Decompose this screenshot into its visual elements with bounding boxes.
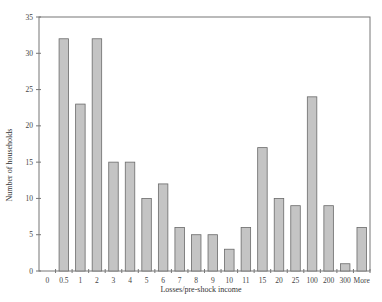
bar <box>175 227 185 271</box>
x-tick-label: More <box>354 276 371 285</box>
bar <box>59 39 68 271</box>
y-tick-label: 30 <box>26 49 34 58</box>
bar <box>307 97 317 271</box>
bar <box>291 206 301 271</box>
y-tick-label: 5 <box>29 230 33 239</box>
x-tick-label: 100 <box>306 276 318 285</box>
bar <box>125 162 134 271</box>
x-tick-label: 9 <box>211 276 215 285</box>
x-tick-label: 11 <box>242 276 249 285</box>
plot-border <box>39 17 370 271</box>
x-tick-label: 2 <box>95 276 99 285</box>
y-tick-label: 0 <box>29 267 33 276</box>
bar <box>258 148 268 271</box>
bar <box>274 198 284 271</box>
bar-chart: 05101520253035 00.5123456789101115202510… <box>0 0 382 302</box>
bar <box>191 235 201 271</box>
bar <box>92 39 102 271</box>
bar <box>225 249 235 271</box>
x-tick-label: 3 <box>112 276 116 285</box>
bars <box>59 39 366 271</box>
x-tick-label: 8 <box>194 276 198 285</box>
bar <box>158 184 168 271</box>
bar <box>241 227 251 271</box>
x-tick-label: 15 <box>259 276 267 285</box>
y-tick-label: 25 <box>26 85 34 94</box>
bar <box>109 162 119 271</box>
x-tick-label: 25 <box>292 276 300 285</box>
x-tick-label: 5 <box>145 276 149 285</box>
x-tick-label: 20 <box>275 276 283 285</box>
x-tick-label: 1 <box>79 276 83 285</box>
y-axis-title-wrap: Number of households <box>2 85 16 245</box>
x-tick-label: 200 <box>323 276 335 285</box>
plot-frame <box>39 17 370 271</box>
bar <box>208 235 218 271</box>
y-tick-label: 15 <box>26 158 34 167</box>
x-axis-title: Losses/pre-shock income <box>0 285 382 294</box>
x-tick-label: 4 <box>128 276 132 285</box>
bar <box>324 206 334 271</box>
y-tick-label: 35 <box>26 13 34 22</box>
y-axis-title: Number of households <box>5 129 14 202</box>
x-tick-label: 300 <box>340 276 352 285</box>
bar <box>76 104 86 271</box>
x-tick-label: 0 <box>45 276 49 285</box>
x-tick-label: 10 <box>226 276 234 285</box>
x-tick-label: 0.5 <box>59 276 69 285</box>
y-tick-label: 10 <box>26 194 34 203</box>
bar <box>357 227 367 271</box>
x-tick-label: 7 <box>178 276 182 285</box>
bar <box>142 198 152 271</box>
x-tick-label: 6 <box>161 276 165 285</box>
y-tick-label: 20 <box>26 121 34 130</box>
bar <box>340 264 350 271</box>
